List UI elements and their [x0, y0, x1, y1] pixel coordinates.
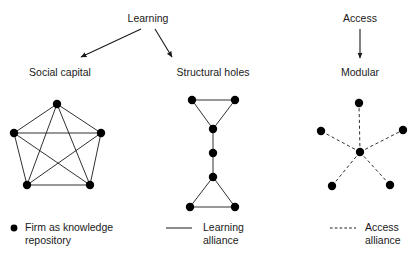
edge-modular — [360, 152, 390, 185]
node-sc-bottom-right — [86, 181, 94, 189]
edge-modular — [321, 131, 360, 152]
legend-label-learning-alliance: Learning alliance — [203, 221, 244, 247]
edge-modular — [359, 103, 360, 152]
node-sc-right — [97, 129, 105, 137]
node-sc-bottom-left — [23, 181, 31, 189]
edge-social-capital — [57, 104, 101, 133]
network-edges — [14, 100, 403, 207]
node-md-top — [355, 99, 363, 107]
legend-marker-firm-node — [11, 225, 18, 232]
node-md-bottom-left — [328, 182, 336, 190]
driver-label-learning: Learning — [128, 12, 169, 25]
edge-structural-holes — [213, 100, 235, 129]
node-md-left — [317, 127, 325, 135]
arrow-learning-to-structural-holes — [155, 29, 172, 57]
node-sh-lower-apex — [209, 173, 217, 181]
node-sh-middle — [209, 149, 217, 157]
network-label-social-capital: Social capital — [29, 66, 91, 79]
driver-arrows — [81, 29, 360, 58]
node-sh-top-right — [231, 96, 239, 104]
network-label-modular: Modular — [341, 66, 379, 79]
diagram-canvas: Learning Access Social capital Structura… — [0, 0, 416, 263]
legend-label-firm-node: Firm as knowledge repository — [25, 221, 113, 247]
node-sh-upper-apex — [209, 125, 217, 133]
node-md-center — [356, 148, 364, 156]
legend-label-access-alliance: Access alliance — [365, 221, 401, 247]
arrow-learning-to-social-capital — [81, 29, 141, 57]
edge-social-capital — [27, 133, 101, 185]
node-sc-left — [10, 129, 18, 137]
node-sc-top — [53, 100, 61, 108]
node-sh-bottom-left — [186, 203, 194, 211]
node-sh-bottom-right — [231, 203, 239, 211]
node-md-right — [399, 126, 407, 134]
edge-modular — [332, 152, 360, 186]
edge-social-capital — [90, 133, 101, 185]
edge-modular — [360, 130, 403, 152]
edge-structural-holes — [213, 177, 235, 207]
network-nodes — [10, 96, 407, 211]
driver-label-access: Access — [343, 12, 377, 25]
edge-social-capital — [14, 104, 57, 133]
node-md-bottom-right — [386, 181, 394, 189]
edge-structural-holes — [190, 177, 213, 207]
edge-structural-holes — [192, 100, 213, 129]
node-sh-top-left — [188, 96, 196, 104]
network-label-structural-holes: Structural holes — [177, 66, 250, 79]
